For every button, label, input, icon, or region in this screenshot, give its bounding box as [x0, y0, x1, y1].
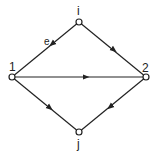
node-j — [76, 129, 82, 135]
node-label-1: 1 — [9, 60, 16, 74]
edge-i-2 — [79, 22, 146, 77]
edge-i-1 — [12, 22, 79, 77]
node-label-i: i — [77, 4, 80, 18]
node-1 — [9, 74, 15, 80]
graph-diagram: i 1 2 j e — [0, 0, 157, 154]
edge-1-j — [12, 77, 79, 132]
edge-2-j — [79, 77, 146, 132]
node-i — [76, 19, 82, 25]
node-label-j: j — [76, 137, 80, 151]
edge-label-e: e — [44, 36, 50, 47]
node-label-2: 2 — [142, 61, 149, 75]
